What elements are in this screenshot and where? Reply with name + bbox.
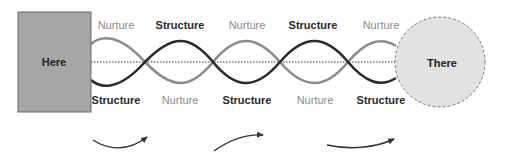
top-label-1: Nurture — [98, 19, 135, 31]
bottom-label-1: Structure — [92, 94, 141, 106]
there-label: There — [427, 57, 457, 69]
structure-strand — [91, 41, 396, 86]
top-label-3: Nurture — [229, 19, 266, 31]
bottom-label-4: Nurture — [297, 94, 334, 106]
bottom-label-5: Structure — [357, 94, 406, 106]
top-label-5: Nurture — [363, 19, 400, 31]
arrow-1-icon — [93, 137, 147, 148]
arrow-3-icon — [327, 139, 394, 148]
nurture-strand — [91, 38, 396, 83]
bottom-label-3: Structure — [223, 94, 272, 106]
top-label-2: Structure — [156, 19, 205, 31]
top-label-4: Structure — [289, 19, 338, 31]
arrow-2-icon — [214, 135, 263, 151]
bottom-label-2: Nurture — [162, 94, 199, 106]
here-label: Here — [42, 56, 66, 68]
